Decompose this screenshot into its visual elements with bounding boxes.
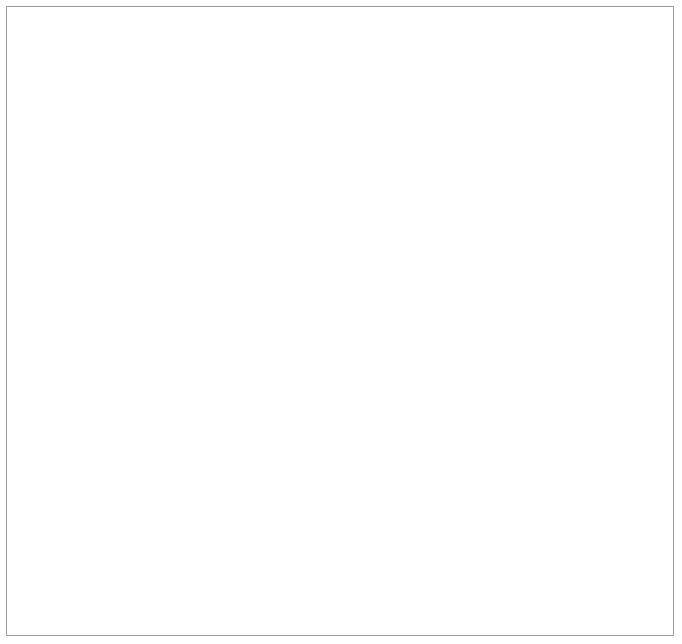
bottom-chart-svg [0, 345, 682, 644]
chart-panel-top [0, 0, 682, 345]
top-chart-svg [0, 0, 682, 345]
figure-container [0, 0, 682, 644]
chart-panel-bottom [0, 345, 682, 644]
